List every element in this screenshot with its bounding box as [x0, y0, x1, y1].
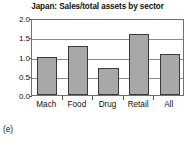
panel-caption: (e)	[3, 125, 13, 134]
x-axis-tick-mark	[62, 96, 63, 100]
bar-retail	[129, 34, 149, 95]
y-axis: 0.00.51.01.52.0	[0, 19, 30, 96]
bar-drug	[98, 68, 118, 95]
x-axis-tick-mark	[123, 96, 124, 100]
x-axis-tick-mark	[153, 96, 154, 100]
y-axis-tick-label: 2.0	[2, 15, 30, 24]
y-axis-tick-label: 0.5	[2, 72, 30, 81]
x-axis-tick-mark	[92, 96, 93, 100]
bar-food	[68, 46, 88, 95]
x-axis-tick-label: Retail	[128, 100, 149, 109]
x-axis-tick-label: Mach	[36, 100, 56, 109]
y-axis-tick-label: 0.0	[2, 92, 30, 101]
chart-figure: Japan: Sales/total assets by sector 0.00…	[0, 0, 195, 146]
bar-mach	[37, 57, 57, 95]
x-axis-tick-label: Drug	[99, 100, 117, 109]
x-axis-tick-label: Food	[68, 100, 87, 109]
x-axis: MachFoodDrugRetailAll	[31, 96, 184, 114]
bars-group	[32, 20, 183, 95]
plot-area	[31, 19, 184, 96]
y-axis-tick-label: 1.5	[2, 34, 30, 43]
x-axis-tick-label: All	[164, 100, 173, 109]
chart-title: Japan: Sales/total assets by sector	[0, 2, 195, 11]
bar-all	[160, 54, 180, 95]
y-axis-tick-label: 1.0	[2, 53, 30, 62]
